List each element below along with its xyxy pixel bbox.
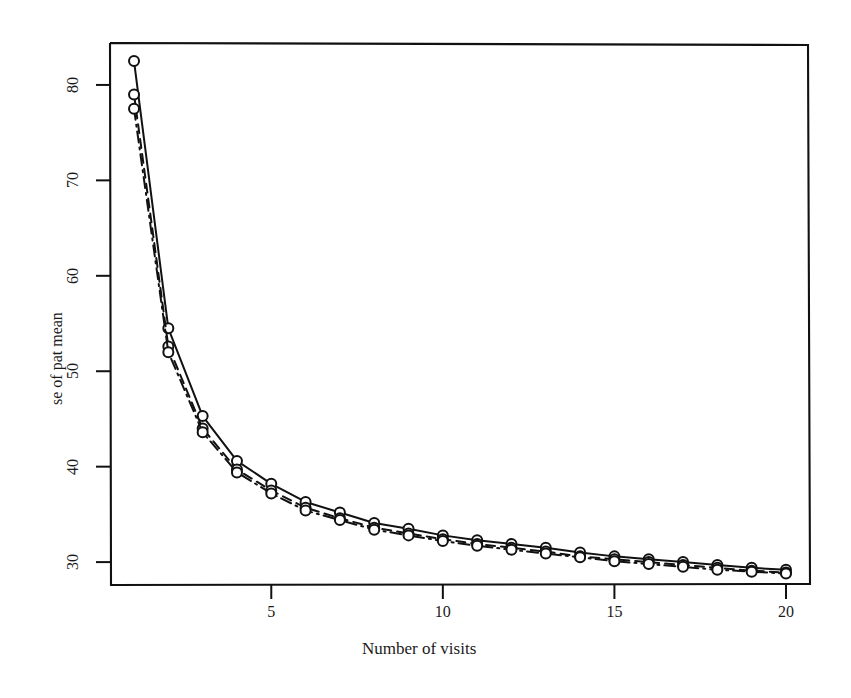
- y-tick-label: 80: [63, 72, 83, 98]
- data-point-marker: [301, 506, 311, 516]
- chart-plot-area: [0, 0, 851, 698]
- data-point-marker: [198, 427, 208, 437]
- figure-canvas: se of pat mean Number of visits 5101520 …: [0, 0, 851, 698]
- data-point-marker: [266, 488, 276, 498]
- data-point-marker: [129, 89, 139, 99]
- data-point-marker: [129, 104, 139, 114]
- figure-background: [0, 0, 851, 698]
- data-point-marker: [129, 56, 139, 66]
- data-point-marker: [575, 552, 585, 562]
- data-point-marker: [163, 347, 173, 357]
- data-point-marker: [712, 565, 722, 575]
- data-point-marker: [609, 556, 619, 566]
- y-tick-label: 70: [63, 167, 83, 193]
- data-point-marker: [438, 536, 448, 546]
- data-point-marker: [369, 525, 379, 535]
- data-point-marker: [644, 559, 654, 569]
- data-point-marker: [335, 515, 345, 525]
- x-tick-label: 15: [604, 603, 624, 621]
- data-point-marker: [404, 530, 414, 540]
- y-tick-label: 60: [63, 263, 83, 289]
- y-tick-label: 40: [63, 454, 83, 480]
- data-point-marker: [472, 541, 482, 551]
- x-tick-label: 10: [433, 603, 453, 621]
- y-tick-label: 50: [63, 358, 83, 384]
- data-point-marker: [678, 562, 688, 572]
- x-axis-label: Number of visits: [362, 639, 476, 659]
- x-tick-label: 5: [261, 603, 281, 621]
- data-point-marker: [747, 567, 757, 577]
- data-point-marker: [541, 549, 551, 559]
- y-tick-label: 30: [63, 549, 83, 575]
- x-tick-label: 20: [776, 603, 796, 621]
- data-point-marker: [506, 545, 516, 555]
- data-point-marker: [232, 467, 242, 477]
- data-point-marker: [781, 569, 791, 579]
